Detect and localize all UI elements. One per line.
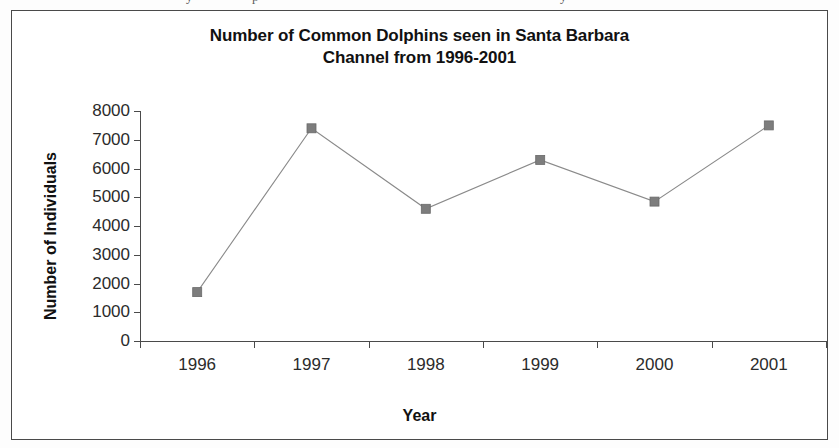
x-axis-tick xyxy=(140,341,141,348)
x-axis-tick-label: 1998 xyxy=(407,355,445,375)
x-axis-tick xyxy=(826,341,827,348)
y-axis-tick-label: 2000 xyxy=(92,274,130,294)
y-axis-tick-label: 7000 xyxy=(92,130,130,150)
data-point-marker: 2001: 7500 xyxy=(764,121,773,130)
y-axis-title: Number of Individuals xyxy=(42,121,64,351)
chart-title: Number of Common Dolphins seen in Santa … xyxy=(12,25,827,70)
data-series-layer: 1996: 17001997: 74001998: 46001999: 6300… xyxy=(140,111,830,341)
cutoff-fragment-3: y xyxy=(560,0,567,5)
x-axis-title: Year xyxy=(12,407,827,425)
y-axis-tick-label: 3000 xyxy=(92,245,130,265)
chart-page: y p y Number of Common Dolphins seen in … xyxy=(0,0,839,448)
x-axis-tick-label: 1996 xyxy=(178,355,216,375)
y-axis-tick-label: 4000 xyxy=(92,216,130,236)
data-point-marker: 1998: 4600 xyxy=(421,204,430,213)
cutoff-fragment-2: p xyxy=(252,0,259,5)
cut-off-text-above-figure: y p y xyxy=(0,0,839,9)
data-point-marker: 1999: 6300 xyxy=(536,155,545,164)
y-axis-tick-label: 8000 xyxy=(92,101,130,121)
x-axis-tick xyxy=(369,341,370,348)
x-axis-tick-label: 1999 xyxy=(521,355,559,375)
y-axis-tick-label: 0 xyxy=(121,331,130,351)
x-axis-tick-label: 2001 xyxy=(750,355,788,375)
chart-title-line-1: Number of Common Dolphins seen in Santa … xyxy=(12,25,827,47)
x-axis-tick xyxy=(254,341,255,348)
cutoff-fragment-1: y xyxy=(186,0,193,5)
x-axis-tick-label: 1997 xyxy=(293,355,331,375)
y-axis-tick-label: 1000 xyxy=(92,302,130,322)
data-point-marker: 2000: 4850 xyxy=(650,197,659,206)
x-axis-tick-label: 2000 xyxy=(636,355,674,375)
x-axis-tick xyxy=(712,341,713,348)
plot-area: 800070006000500040003000200010000 199619… xyxy=(140,111,830,341)
data-point-marker: 1997: 7400 xyxy=(307,124,316,133)
y-axis-tick-label: 5000 xyxy=(92,187,130,207)
series-line xyxy=(197,125,769,292)
x-axis-tick xyxy=(597,341,598,348)
x-axis-tick xyxy=(483,341,484,348)
data-point-marker: 1996: 1700 xyxy=(193,288,202,297)
y-axis-tick-label: 6000 xyxy=(92,159,130,179)
chart-title-line-2: Channel from 1996-2001 xyxy=(12,47,827,69)
chart-frame: Number of Common Dolphins seen in Santa … xyxy=(11,10,828,440)
